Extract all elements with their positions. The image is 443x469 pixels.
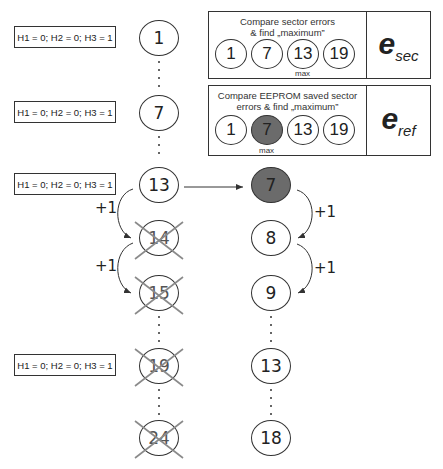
sec-value-13-max: 13 [287,39,319,69]
panel-title-line2: errors & find „maximum” [209,101,366,112]
panel-title-line2: & find „maximum” [209,27,366,38]
ref-value-19: 19 [323,115,355,145]
panel-sector-errors: Compare sector errors & find „maximum” 1… [208,11,431,79]
increment-label: +1 [95,199,117,217]
symbol-e-ref: eref [367,86,430,155]
increment-label: +1 [314,203,336,221]
increment-label: +1 [95,257,117,275]
panel-title-line1: Compare EEPROM saved sector [209,90,366,101]
sec-value-19: 19 [323,39,355,69]
panel-eeprom-errors: Compare EEPROM saved sector errors & fin… [208,85,431,156]
sec-value-7: 7 [251,39,283,69]
sec-value-1: 1 [215,39,247,69]
ref-value-1: 1 [215,115,247,145]
panel-title-line1: Compare sector errors [209,16,366,27]
ref-value-7-max: 7 [251,115,283,145]
max-label: max [295,69,310,78]
max-label: max [259,146,274,155]
increment-label: +1 [314,259,336,277]
symbol-e-sec: esec [367,12,430,78]
ref-value-13: 13 [287,115,319,145]
